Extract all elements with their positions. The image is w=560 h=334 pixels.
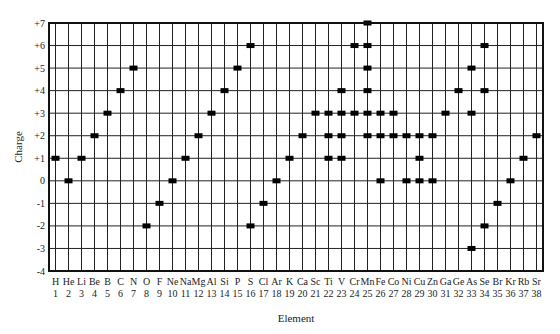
x-tick-number: 28 [402,288,412,299]
charge-marker [247,43,255,48]
x-tick-number: 8 [144,288,149,299]
x-tick-number: 6 [118,288,123,299]
charge-marker [286,156,294,161]
charge-marker [377,133,385,138]
x-tick-symbol: O [143,276,150,287]
x-tick-number: 11 [181,288,191,299]
x-tick-number: 29 [415,288,425,299]
charge-marker [364,133,372,138]
x-tick-number: 19 [285,288,295,299]
x-tick-symbol: Al [207,276,217,287]
x-tick-number: 38 [532,288,542,299]
x-tick-symbol: He [63,276,75,287]
x-tick-symbol: Na [180,276,192,287]
charge-marker [234,66,242,71]
charge-marker [65,178,73,183]
charge-chart: +7+6+5+4+3+2+10-1-2-3-4 H1He2Li3Be4B5C6N… [0,0,560,334]
x-tick-symbol: Ga [440,276,452,287]
charge-marker [351,111,359,116]
charge-marker [416,133,424,138]
x-tick-number: 31 [441,288,451,299]
charge-marker [468,111,476,116]
x-tick-number: 26 [376,288,386,299]
charge-marker [156,201,164,206]
charge-marker [520,156,528,161]
x-tick-number: 5 [105,288,110,299]
charge-marker [429,178,437,183]
x-tick-symbol: Ca [297,276,309,287]
y-tick-label: 0 [40,175,45,186]
charge-marker [312,111,320,116]
charge-marker [338,156,346,161]
charge-marker [260,201,268,206]
charge-marker [338,88,346,93]
x-tick-number: 32 [454,288,464,299]
x-tick-number: 30 [428,288,438,299]
x-tick-symbol: F [157,276,163,287]
grid-lines [49,23,543,271]
x-tick-symbol: C [117,276,124,287]
x-tick-number: 2 [66,288,71,299]
charge-marker [221,88,229,93]
x-tick-symbol: Ni [402,276,412,287]
x-tick-symbol: Ne [167,276,179,287]
x-axis-label: Element [278,312,315,324]
charge-marker [390,111,398,116]
x-tick-number: 7 [131,288,136,299]
x-tick-symbol: Ge [453,276,465,287]
charge-marker [364,88,372,93]
charge-marker [377,111,385,116]
x-tick-number: 36 [506,288,516,299]
charge-marker [104,111,112,116]
charge-marker [481,43,489,48]
charge-marker [247,223,255,228]
charge-marker [143,223,151,228]
x-tick-symbol: B [104,276,111,287]
charge-marker [403,178,411,183]
x-tick-symbol: Be [89,276,101,287]
y-tick-label: +6 [34,40,45,51]
y-tick-label: -2 [37,220,45,231]
x-tick-number: 20 [298,288,308,299]
y-tick-label: +5 [34,63,45,74]
charge-marker [507,178,515,183]
x-tick-symbol: Rb [518,276,530,287]
charge-marker [338,133,346,138]
charge-marker [325,111,333,116]
x-tick-symbol: Fe [376,276,387,287]
x-tick-symbol: Sr [532,276,542,287]
x-tick-number: 12 [194,288,204,299]
charge-marker [364,111,372,116]
y-tick-label: +7 [34,18,45,29]
x-tick-number: 18 [272,288,282,299]
x-tick-symbol: Se [480,276,491,287]
charge-marker [364,66,372,71]
charge-marker [299,133,307,138]
x-tick-number: 14 [220,288,230,299]
charge-marker [494,201,502,206]
charge-marker [78,156,86,161]
x-tick-symbol: Zn [427,276,438,287]
y-tick-label: -4 [37,266,45,277]
x-tick-number: 21 [311,288,321,299]
charge-marker [481,223,489,228]
charge-marker [429,133,437,138]
y-tick-label: +4 [34,85,45,96]
charge-marker [403,133,411,138]
x-tick-number: 23 [337,288,347,299]
x-tick-number: 33 [467,288,477,299]
x-tick-symbol: Ti [324,276,333,287]
charge-marker [338,111,346,116]
x-tick-symbol: Li [77,276,86,287]
x-tick-symbol: Cu [414,276,426,287]
x-tick-number: 37 [519,288,529,299]
x-tick-number: 13 [207,288,217,299]
charge-marker [273,178,281,183]
charge-marker [390,133,398,138]
x-axis-ticks: H1He2Li3Be4B5C6N7O8F9Ne10Na11Mg12Al13Si1… [52,276,542,299]
x-tick-number: 15 [233,288,243,299]
y-tick-label: -1 [37,198,45,209]
x-tick-number: 24 [350,288,360,299]
y-tick-label: +1 [34,153,45,164]
x-tick-number: 1 [53,288,58,299]
